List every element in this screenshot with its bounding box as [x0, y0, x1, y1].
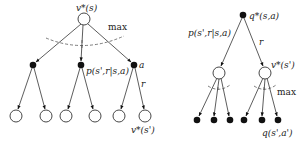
state-leaf-4 [89, 110, 101, 122]
edge-s1-leaf3 [221, 78, 229, 116]
state-leaf-6 [139, 110, 151, 122]
label-q-s-prime-a-prime: q(s',a') [262, 128, 293, 138]
left-backup-tree: v*(s) max p(s',r|s,a) a r v*(s') [10, 3, 155, 135]
label-q-reward-r: r [259, 37, 264, 47]
edge-s2-leaf6 [267, 78, 277, 116]
label-transition-prob: p(s',r|s,a) [86, 66, 129, 77]
q-leaf-action-1 [194, 117, 201, 124]
edge-a2-leaf3 [68, 68, 80, 109]
state-leaf-3 [60, 110, 72, 122]
q-leaf-action-6 [275, 117, 282, 124]
max-arc-state-2 [254, 85, 276, 89]
label-reward-r: r [141, 79, 146, 89]
edge-a1-leaf1 [18, 68, 32, 109]
edge-s2-leaf4 [246, 78, 263, 116]
action-node-3 [131, 62, 138, 69]
label-q-v-star-s-prime: v*(s') [271, 60, 295, 70]
q-root-action-node [240, 12, 247, 19]
edge-s1-leaf1 [199, 78, 217, 116]
label-v-star-s: v*(s) [76, 3, 98, 13]
label-q-star-s-a: q*(s,a) [249, 11, 280, 21]
max-arc-state-1 [208, 85, 230, 89]
q-leaf-action-5 [259, 117, 266, 124]
q-leaf-action-3 [227, 117, 234, 124]
right-backup-tree: q*(s,a) p(s',r|s,a) r v*(s') max q(s',a'… [188, 11, 296, 138]
label-max: max [108, 22, 127, 32]
q-state-node-2 [259, 67, 271, 79]
label-action-a: a [139, 60, 144, 70]
action-node-2 [78, 62, 85, 69]
q-state-node-1 [213, 67, 225, 79]
state-leaf-5 [113, 110, 125, 122]
action-node-1 [30, 62, 37, 69]
q-leaf-action-4 [241, 117, 248, 124]
state-node-root [78, 13, 90, 25]
q-leaf-action-2 [211, 117, 218, 124]
edge-root-to-action-1 [36, 24, 81, 62]
label-v-star-s-prime: v*(s') [131, 125, 155, 135]
edge-s2-leaf5 [262, 79, 265, 116]
edge-q-root-to-state-1 [221, 18, 242, 66]
label-q-transition-prob: p(s',r|s,a) [188, 28, 231, 39]
edge-s1-leaf2 [214, 79, 219, 116]
edge-a1-leaf2 [34, 68, 45, 109]
backup-diagrams: v*(s) max p(s',r|s,a) a r v*(s') [0, 0, 303, 145]
state-leaf-1 [10, 110, 22, 122]
label-q-max: max [277, 87, 296, 97]
state-leaf-2 [40, 110, 52, 122]
